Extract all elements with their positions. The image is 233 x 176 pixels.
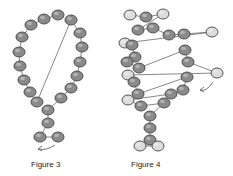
bead	[65, 83, 77, 93]
bead	[140, 12, 152, 22]
bead	[144, 123, 156, 133]
bead	[76, 42, 88, 52]
bead	[133, 63, 145, 73]
bead	[132, 89, 144, 99]
bead	[42, 105, 54, 115]
bead	[42, 118, 54, 128]
bead	[132, 25, 144, 35]
figure-4: Figure 4	[110, 0, 233, 176]
bead	[121, 57, 133, 67]
bead	[134, 141, 146, 151]
bead	[135, 101, 147, 111]
bead	[124, 10, 136, 20]
bead	[128, 77, 140, 87]
bead-loop-diagram-3	[0, 0, 117, 176]
bead	[14, 61, 26, 71]
bead	[52, 10, 64, 20]
bead	[55, 93, 67, 103]
bead	[158, 98, 170, 108]
bead	[179, 45, 191, 55]
bead	[165, 89, 177, 99]
arrow-icon	[38, 145, 55, 151]
bead	[25, 20, 37, 30]
figure-3: Figure 3	[0, 0, 117, 176]
bead-loop-diagram-4	[110, 0, 233, 176]
bead	[65, 15, 77, 25]
bead	[24, 87, 36, 97]
bead	[177, 85, 189, 95]
bead	[144, 111, 156, 121]
bead	[52, 132, 64, 142]
bead	[206, 27, 218, 37]
bead	[34, 132, 46, 142]
arrow-icon	[200, 82, 213, 92]
bead	[13, 47, 25, 57]
figure-4-caption: Figure 4	[131, 160, 160, 169]
bead	[126, 40, 138, 50]
bead	[74, 57, 86, 67]
bead	[38, 14, 50, 24]
bead	[147, 23, 159, 33]
bead	[211, 68, 223, 78]
bead	[18, 75, 30, 85]
bead	[71, 71, 83, 81]
bead	[163, 30, 175, 40]
bead	[157, 9, 169, 19]
bead	[152, 141, 164, 151]
bead	[31, 97, 43, 107]
bead	[178, 29, 190, 39]
bead	[182, 57, 194, 67]
figure-3-caption: Figure 3	[31, 160, 60, 169]
bead	[181, 72, 193, 82]
bead	[16, 32, 28, 42]
bead	[74, 28, 86, 38]
bead	[122, 95, 134, 105]
